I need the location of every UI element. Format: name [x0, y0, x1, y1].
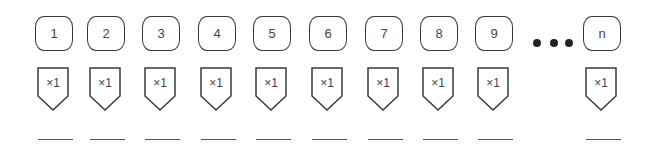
column-n: n ×1 — [583, 0, 623, 153]
number-label: 7 — [380, 26, 387, 41]
multiplier-shield: ×1 — [367, 67, 399, 111]
number-label: 5 — [268, 26, 275, 41]
number-label: 1 — [50, 26, 57, 41]
answer-blank[interactable] — [368, 139, 403, 140]
column-7: 7 ×1 — [365, 0, 405, 153]
dot — [565, 39, 573, 47]
multiplier-label: ×1 — [144, 76, 176, 90]
multiplier-label: ×1 — [477, 76, 509, 90]
number-box: 8 — [420, 16, 458, 51]
ellipsis-icon — [530, 38, 575, 50]
answer-blank[interactable] — [586, 139, 621, 140]
number-box: 9 — [475, 16, 513, 51]
multiplier-label: ×1 — [200, 76, 232, 90]
column-2: 2 ×1 — [87, 0, 127, 153]
column-4: 4 ×1 — [198, 0, 238, 153]
multiplier-shield: ×1 — [89, 67, 121, 111]
number-box: 6 — [309, 16, 347, 51]
multiplier-label: ×1 — [37, 76, 69, 90]
answer-blank[interactable] — [90, 139, 125, 140]
answer-blank[interactable] — [312, 139, 347, 140]
multiplier-shield: ×1 — [477, 67, 509, 111]
multiplier-label: ×1 — [89, 76, 121, 90]
number-label: 4 — [213, 26, 220, 41]
number-box: n — [583, 16, 621, 51]
number-box: 5 — [253, 16, 291, 51]
dot — [550, 39, 558, 47]
answer-blank[interactable] — [478, 139, 513, 140]
dot — [533, 39, 541, 47]
answer-blank[interactable] — [38, 139, 73, 140]
multiplier-label: ×1 — [255, 76, 287, 90]
column-8: 8 ×1 — [420, 0, 460, 153]
multiplier-shield: ×1 — [200, 67, 232, 111]
multiplier-label: ×1 — [585, 76, 617, 90]
number-box: 4 — [198, 16, 236, 51]
multiplier-label: ×1 — [367, 76, 399, 90]
number-label: 8 — [435, 26, 442, 41]
number-label: n — [598, 26, 605, 41]
number-box: 7 — [365, 16, 403, 51]
column-1: 1 ×1 — [35, 0, 75, 153]
multiplier-label: ×1 — [311, 76, 343, 90]
column-3: 3 ×1 — [142, 0, 182, 153]
number-box: 2 — [87, 16, 125, 51]
multiplier-shield: ×1 — [144, 67, 176, 111]
column-6: 6 ×1 — [309, 0, 349, 153]
column-5: 5 ×1 — [253, 0, 293, 153]
multiplier-shield: ×1 — [422, 67, 454, 111]
number-box: 3 — [142, 16, 180, 51]
number-label: 6 — [324, 26, 331, 41]
answer-blank[interactable] — [256, 139, 291, 140]
multiplier-shield: ×1 — [255, 67, 287, 111]
number-label: 2 — [102, 26, 109, 41]
number-label: 3 — [157, 26, 164, 41]
multiplier-shield: ×1 — [37, 67, 69, 111]
answer-blank[interactable] — [423, 139, 458, 140]
answer-blank[interactable] — [201, 139, 236, 140]
number-box: 1 — [35, 16, 73, 51]
multiplier-label: ×1 — [422, 76, 454, 90]
column-9: 9 ×1 — [475, 0, 515, 153]
multiplier-shield: ×1 — [311, 67, 343, 111]
number-label: 9 — [490, 26, 497, 41]
multiplier-shield: ×1 — [585, 67, 617, 111]
answer-blank[interactable] — [145, 139, 180, 140]
